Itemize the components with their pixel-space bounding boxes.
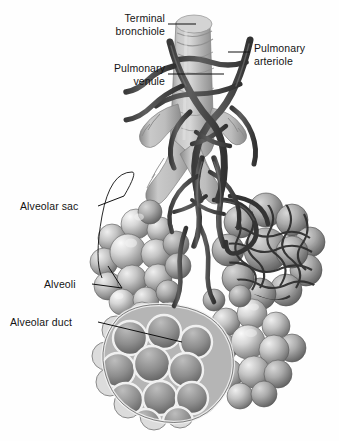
label-alveolar-sac: Alveolar sac (20, 200, 100, 213)
label-terminal-bronchiole: Terminal bronchiole (60, 12, 165, 37)
label-alveolar-duct: Alveolar duct (10, 316, 100, 329)
label-alveoli: Alveoli (44, 278, 94, 291)
alveolar-sac-right-capillary (212, 193, 325, 310)
anatomy-figure-page: Terminal bronchiole Pulmonary venule Pul… (0, 0, 339, 441)
label-pulmonary-venule: Pulmonary venule (60, 62, 165, 87)
leader-alveolar-sac (98, 196, 124, 206)
alveolar-sac-bottom-cutaway (92, 302, 236, 439)
label-pulmonary-arteriole: Pulmonary arteriole (254, 42, 339, 67)
